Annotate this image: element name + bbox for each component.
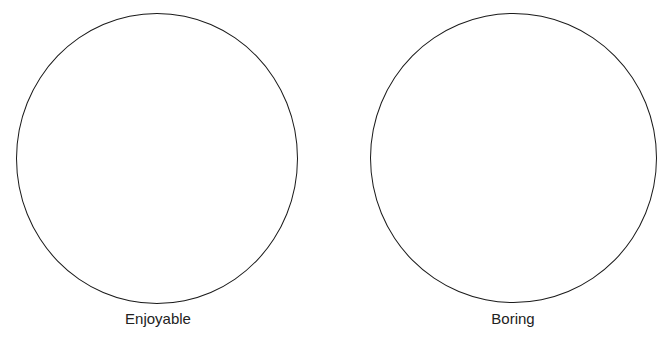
circle-diagram: Enjoyable Boring [0, 0, 667, 337]
circle-boring [370, 13, 657, 303]
label-enjoyable: Enjoyable [125, 311, 191, 326]
label-boring: Boring [491, 311, 534, 326]
circle-enjoyable [16, 13, 298, 304]
